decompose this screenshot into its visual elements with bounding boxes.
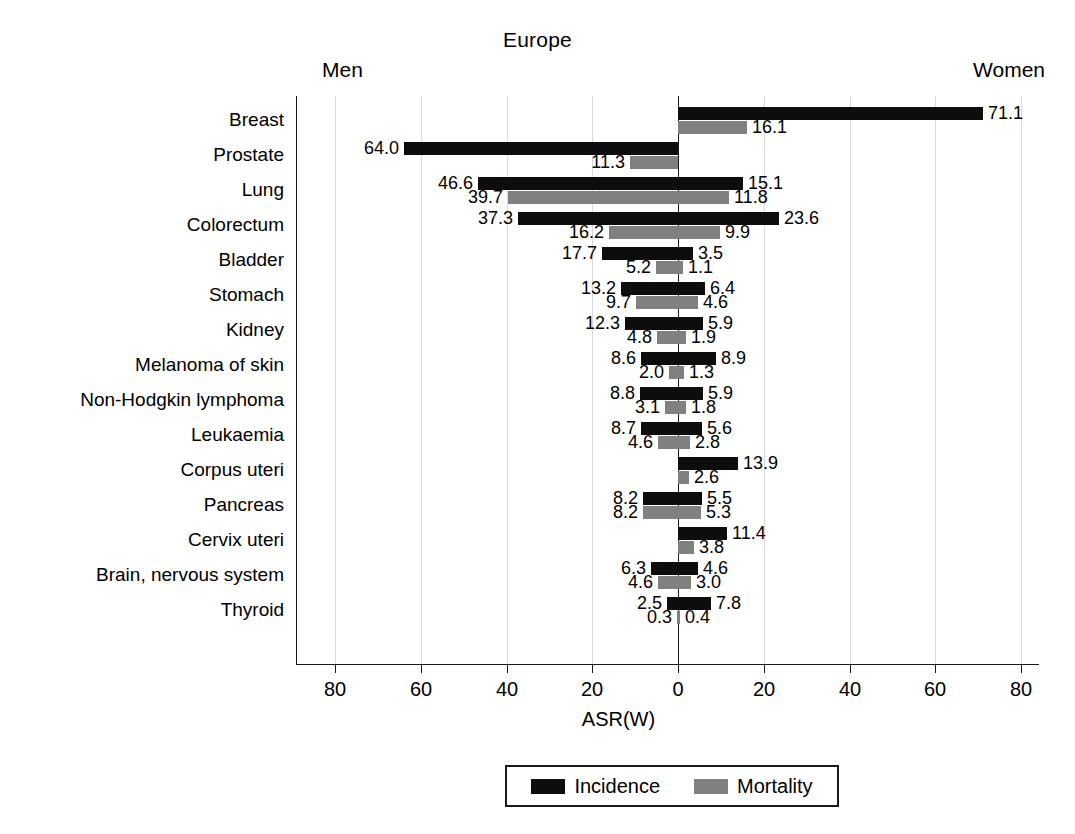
bar-women-mortality [678, 191, 729, 204]
bar-value-label: 0.3 [647, 608, 672, 626]
y-axis-line [296, 96, 297, 665]
bar-value-label: 3.0 [696, 573, 721, 591]
bar-women-mortality [678, 436, 690, 449]
bar-men-mortality [658, 436, 678, 449]
x-tick-mark [935, 664, 936, 673]
x-tick-label: 80 [324, 678, 346, 701]
bar-value-label: 8.9 [721, 349, 746, 367]
x-tick-label: 80 [1010, 678, 1032, 701]
bar-men-incidence [404, 142, 678, 155]
category-label-melanoma-of-skin: Melanoma of skin [135, 354, 284, 376]
bar-women-incidence [678, 282, 705, 295]
bar-men-mortality [656, 261, 678, 274]
bar-value-label: 39.7 [468, 188, 503, 206]
category-label-stomach: Stomach [209, 284, 284, 306]
legend-label-mortality: Mortality [737, 775, 813, 798]
x-axis-title: ASR(W) [296, 708, 1039, 731]
bar-value-label: 5.3 [706, 503, 731, 521]
x-axis-line [296, 664, 1039, 665]
x-tick-label: 20 [581, 678, 603, 701]
x-tick-mark [678, 664, 679, 673]
bar-men-incidence [643, 492, 678, 505]
bar-value-label: 5.2 [626, 258, 651, 276]
category-label-non-hodgkin-lymphoma: Non-Hodgkin lymphoma [80, 389, 284, 411]
bar-men-mortality [669, 366, 678, 379]
legend-item-incidence: Incidence [531, 775, 660, 798]
bar-women-mortality [678, 226, 720, 239]
chart-legend: Incidence Mortality [505, 765, 839, 807]
plot-area: 71.116.164.011.346.615.139.711.837.323.6… [296, 96, 1039, 665]
bar-women-incidence [678, 562, 698, 575]
bar-value-label: 4.6 [628, 433, 653, 451]
x-tick-mark [850, 664, 851, 673]
bar-men-mortality [630, 156, 678, 169]
bar-women-mortality [678, 506, 701, 519]
bar-women-mortality [678, 366, 684, 379]
bar-value-label: 8.8 [610, 384, 635, 402]
bar-men-incidence [651, 562, 678, 575]
x-tick-label: 0 [672, 678, 683, 701]
x-tick-mark [421, 664, 422, 673]
bar-value-label: 9.7 [606, 293, 631, 311]
bar-value-label: 3.1 [635, 398, 660, 416]
legend-swatch-mortality [694, 779, 728, 794]
x-tick-mark [507, 664, 508, 673]
bar-value-label: 2.8 [695, 433, 720, 451]
category-label-thyroid: Thyroid [221, 599, 284, 621]
category-label-pancreas: Pancreas [204, 494, 284, 516]
bar-value-label: 1.3 [689, 363, 714, 381]
bar-men-mortality [665, 401, 678, 414]
gridline-80 [335, 96, 336, 665]
bar-value-label: 1.9 [691, 328, 716, 346]
bar-value-label: 9.9 [725, 223, 750, 241]
x-tick-mark [335, 664, 336, 673]
category-label-colorectum: Colorectum [187, 214, 284, 236]
bar-value-label: 2.6 [694, 468, 719, 486]
bar-value-label: 64.0 [364, 139, 399, 157]
left-side-header: Men [322, 58, 363, 82]
x-tick-label: 60 [410, 678, 432, 701]
gridline-80 [1021, 96, 1022, 665]
bar-men-mortality [658, 576, 678, 589]
gridline-60 [421, 96, 422, 665]
bar-value-label: 0.4 [685, 608, 710, 626]
bar-value-label: 13.9 [743, 454, 778, 472]
bar-women-mortality [678, 331, 686, 344]
bar-men-mortality [657, 331, 678, 344]
bar-women-mortality [678, 296, 698, 309]
chart-title: Europe [0, 28, 1075, 52]
x-tick-mark [764, 664, 765, 673]
x-tick-label: 60 [924, 678, 946, 701]
x-tick-label: 40 [496, 678, 518, 701]
bar-value-label: 2.0 [639, 363, 664, 381]
bar-value-label: 7.8 [716, 594, 741, 612]
bar-women-incidence [678, 107, 983, 120]
bar-value-label: 1.1 [688, 258, 713, 276]
bar-men-mortality [636, 296, 678, 309]
category-label-kidney: Kidney [226, 319, 284, 341]
bar-women-mortality [678, 401, 686, 414]
bar-value-label: 16.2 [569, 223, 604, 241]
category-label-bladder: Bladder [219, 249, 285, 271]
category-label-prostate: Prostate [213, 144, 284, 166]
bar-women-mortality [678, 121, 747, 134]
x-tick-label: 20 [753, 678, 775, 701]
bar-value-label: 3.8 [699, 538, 724, 556]
bar-value-label: 71.1 [988, 104, 1023, 122]
bar-men-mortality [609, 226, 678, 239]
category-label-cervix-uteri: Cervix uteri [188, 529, 284, 551]
gridline-60 [935, 96, 936, 665]
bar-men-mortality [643, 506, 678, 519]
legend-label-incidence: Incidence [574, 775, 660, 798]
bar-value-label: 12.3 [585, 314, 620, 332]
x-tick-label: 40 [839, 678, 861, 701]
bar-women-mortality [678, 471, 689, 484]
right-side-header: Women [973, 58, 1045, 82]
bar-value-label: 16.1 [752, 118, 787, 136]
bar-value-label: 23.6 [784, 209, 819, 227]
bar-men-mortality [508, 191, 678, 204]
bar-value-label: 11.3 [591, 153, 625, 171]
bar-men-incidence [478, 177, 678, 190]
category-label-breast: Breast [229, 109, 284, 131]
x-tick-mark [592, 664, 593, 673]
